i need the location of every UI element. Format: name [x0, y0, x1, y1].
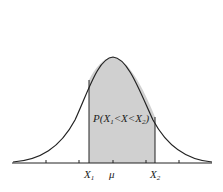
- probability-label: P(X1<X<X2): [92, 112, 149, 126]
- mu-label: μ: [108, 168, 115, 180]
- shaded-area: [89, 57, 155, 163]
- normal-distribution-diagram: P(X1<X<X2) X1 μ X2: [0, 0, 223, 192]
- x1-label: X1: [83, 168, 94, 182]
- x2-label: X2: [149, 168, 161, 182]
